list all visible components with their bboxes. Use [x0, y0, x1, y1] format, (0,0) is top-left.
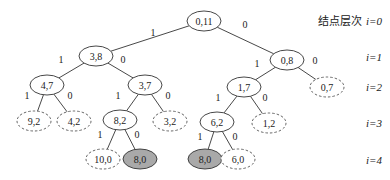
- node-label: 4,7: [41, 80, 54, 91]
- tree-edge: [217, 27, 273, 54]
- edge-label: 1: [116, 90, 121, 101]
- tree-edge: [256, 67, 276, 79]
- node-label: 9,2: [28, 116, 41, 127]
- tree-node: 0,11: [187, 11, 221, 31]
- nodes-layer: 0,113,80,84,73,71,70,79,24,28,23,26,21,2…: [17, 11, 344, 169]
- level-label: i=4: [366, 154, 382, 166]
- tree-node: 6,2: [200, 112, 234, 132]
- edge-label: 1: [25, 90, 30, 101]
- edge-label: 0: [121, 54, 126, 65]
- tree-edge: [127, 94, 139, 111]
- tree-node: 6,0: [221, 149, 255, 169]
- node-label: 8,2: [114, 115, 127, 126]
- node-label: 3,8: [90, 51, 103, 62]
- node-label: 8,0: [134, 154, 147, 165]
- edge-label: 0: [263, 92, 268, 103]
- edge-label: 1: [59, 54, 64, 65]
- edge-label: 0: [166, 90, 171, 101]
- tree-node: 8,0: [188, 149, 222, 169]
- edge-label: 1: [98, 129, 103, 140]
- node-label: 1,2: [263, 118, 276, 129]
- tree-node: 9,2: [17, 111, 51, 131]
- edge-label: 1: [216, 92, 221, 103]
- legend-title: 结点层次: [318, 14, 362, 27]
- tree-edge: [38, 95, 44, 111]
- tree-edge: [107, 130, 116, 150]
- tree-edge: [250, 96, 262, 113]
- tree-edge: [208, 132, 214, 149]
- node-label: 8,0: [199, 154, 212, 165]
- edge-label: 0: [68, 90, 73, 101]
- node-label: 6,2: [211, 117, 224, 128]
- tree-edge: [298, 68, 316, 80]
- edge-label: 1: [198, 131, 203, 142]
- edge-label: 0: [135, 129, 140, 140]
- tree-node: 0,8: [270, 50, 304, 70]
- tree-node: 3,8: [79, 46, 113, 66]
- node-label: 0,8: [281, 55, 294, 66]
- node-label: 3,7: [139, 80, 152, 91]
- tree-canvas: 1010101010101010 0,113,80,84,73,71,70,79…: [0, 0, 390, 180]
- tree-node: 0,7: [310, 77, 344, 97]
- tree-node: 4,2: [57, 111, 91, 131]
- tree-node: 4,7: [30, 75, 64, 95]
- level-label: i=2: [366, 81, 382, 93]
- node-label: 0,11: [195, 16, 212, 27]
- tree-node: 10,0: [86, 149, 120, 169]
- level-label: i=0: [366, 15, 382, 27]
- tree-node: 1,7: [227, 77, 261, 97]
- tree-edge: [108, 63, 133, 78]
- tree-edge: [222, 131, 232, 149]
- node-label: 3,2: [164, 116, 177, 127]
- edge-label: 0: [233, 131, 238, 142]
- edge-label: 1: [151, 27, 156, 38]
- node-label: 4,2: [68, 116, 81, 127]
- tree-node: 3,2: [153, 111, 187, 131]
- node-label: 10,0: [94, 154, 112, 165]
- tree-edge: [54, 94, 67, 112]
- tree-node: 8,2: [103, 110, 137, 130]
- edge-label: 1: [255, 58, 260, 69]
- tree-edge: [224, 96, 237, 113]
- level-label: i=1: [366, 51, 382, 63]
- level-label: i=3: [366, 117, 382, 129]
- node-label: 0,7: [321, 82, 334, 93]
- tree-edge: [59, 63, 84, 78]
- tree-node: 1,2: [252, 113, 286, 133]
- edge-label: 0: [243, 19, 248, 30]
- tree-edge: [151, 94, 163, 111]
- node-label: 1,7: [238, 82, 251, 93]
- node-label: 6,0: [232, 154, 245, 165]
- tree-node: 8,0: [123, 149, 157, 169]
- tree-node: 3,7: [128, 75, 162, 95]
- edge-label: 0: [313, 55, 318, 66]
- tree-diagram: 1010101010101010 0,113,80,84,73,71,70,79…: [0, 0, 390, 180]
